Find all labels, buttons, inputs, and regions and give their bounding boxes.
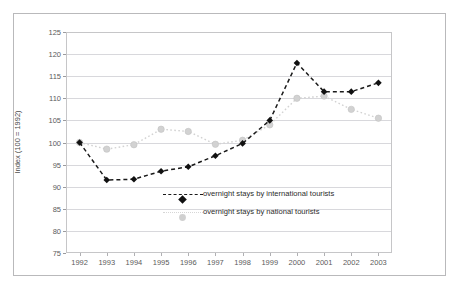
legend-label-national: overnight stays by national tourists — [203, 207, 320, 217]
legend-item-national: overnight stays by national tourists — [163, 207, 378, 218]
y-tick-label: 85 — [31, 204, 61, 213]
y-tick-mark — [63, 98, 66, 99]
y-tick-label: 125 — [31, 28, 61, 37]
gridline-y — [67, 165, 391, 166]
gridline-y — [67, 187, 391, 188]
y-tick-mark — [63, 54, 66, 55]
gridline-y — [67, 143, 391, 144]
x-tick-mark — [161, 253, 162, 256]
y-tick-label: 110 — [31, 94, 61, 103]
legend-label-international: overnight stays by international tourist… — [203, 189, 334, 199]
y-tick-mark — [63, 76, 66, 77]
x-tick-mark — [107, 253, 108, 256]
gridline-y — [67, 98, 391, 99]
cropped-header-strip — [0, 0, 460, 13]
x-tick-mark — [80, 253, 81, 256]
y-tick-mark — [63, 32, 66, 33]
y-tick-label: 90 — [31, 182, 61, 191]
x-tick-mark — [243, 253, 244, 256]
y-tick-mark — [63, 143, 66, 144]
x-tick-mark — [324, 253, 325, 256]
x-tick-mark — [270, 253, 271, 256]
y-tick-mark — [63, 253, 66, 254]
y-tick-label: 115 — [31, 72, 61, 81]
x-tick-mark — [134, 253, 135, 256]
y-tick-label: 80 — [31, 226, 61, 235]
y-tick-label: 95 — [31, 160, 61, 169]
y-tick-label: 75 — [31, 249, 61, 258]
x-tick-label: 2003 — [361, 258, 395, 267]
x-tick-mark — [351, 253, 352, 256]
legend-marker-diamond-icon — [163, 189, 203, 200]
y-tick-label: 100 — [31, 138, 61, 147]
y-tick-label: 105 — [31, 116, 61, 125]
x-tick-mark — [297, 253, 298, 256]
y-axis-label: Index (100 = 1992) — [13, 110, 22, 173]
y-tick-label: 120 — [31, 50, 61, 59]
chart-page: Index (100 = 1992) 758085909510010511011… — [0, 0, 460, 289]
legend-item-international: overnight stays by international tourist… — [163, 189, 378, 200]
gridline-y — [67, 76, 391, 77]
x-tick-mark — [378, 253, 379, 256]
gridline-y — [67, 54, 391, 55]
x-tick-mark — [215, 253, 216, 256]
y-tick-mark — [63, 165, 66, 166]
y-tick-mark — [63, 231, 66, 232]
legend-marker-circle-icon — [163, 207, 203, 218]
chart-legend: overnight stays by international tourist… — [163, 189, 378, 225]
gridline-y — [67, 231, 391, 232]
gridline-y — [67, 120, 391, 121]
y-tick-mark — [63, 187, 66, 188]
x-tick-mark — [188, 253, 189, 256]
y-tick-mark — [63, 120, 66, 121]
y-tick-mark — [63, 209, 66, 210]
